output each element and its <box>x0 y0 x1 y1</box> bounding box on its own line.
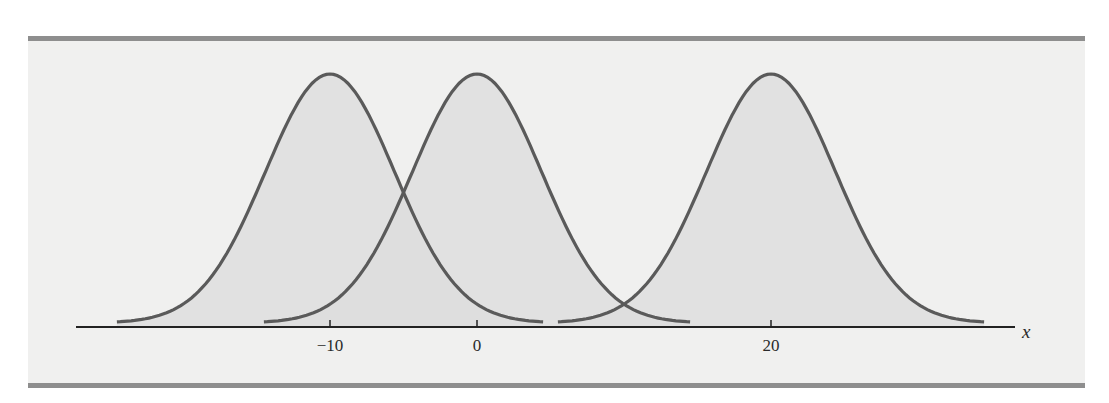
x-tick-label: 20 <box>763 336 780 355</box>
curve-fills <box>117 74 984 327</box>
x-tick-label: 0 <box>473 336 482 355</box>
normal-curves-plot: −10020 x <box>0 0 1109 403</box>
curve-fill-curve-mean-20 <box>558 74 984 327</box>
x-tick-label: −10 <box>317 336 344 355</box>
x-axis-label: x <box>1021 321 1031 342</box>
